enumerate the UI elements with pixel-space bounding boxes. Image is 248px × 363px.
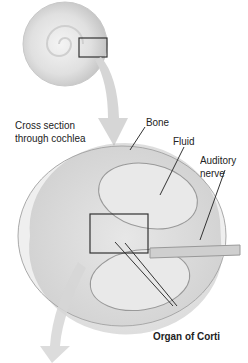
label-auditory: Auditory [200,154,236,167]
label-nerve: nerve [200,167,225,180]
label-bone: Bone [146,116,169,129]
arrow-down-icon [95,57,128,146]
label-cross-section-2: through cochlea [15,132,85,145]
label-fluid: Fluid [173,135,194,148]
label-cross-section: Cross section [15,119,75,132]
cochlea-diagram [0,0,248,363]
cochlea-shell [23,2,107,86]
label-organ-of-corti: Organ of Corti [153,330,220,343]
